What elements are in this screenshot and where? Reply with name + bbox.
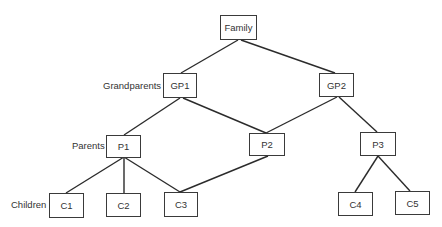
node-c3: C3 <box>164 192 198 217</box>
node-gp2: GP2 <box>319 73 354 97</box>
node-p2: P2 <box>249 133 285 156</box>
node-p1: P1 <box>106 135 141 158</box>
node-c2: C2 <box>106 193 141 217</box>
node-c4: C4 <box>338 192 373 216</box>
edge-gp1-p1 <box>124 98 180 135</box>
node-c5: C5 <box>395 191 430 215</box>
edge-gp1-p2 <box>183 98 266 133</box>
node-c1: C1 <box>49 193 84 218</box>
node-family: Family <box>220 15 257 40</box>
edge-family-gp1 <box>181 40 238 73</box>
node-gp1: GP1 <box>163 73 197 98</box>
edge-gp2-p2 <box>266 97 337 133</box>
edge-p3-c4 <box>355 156 378 192</box>
node-p3: P3 <box>360 132 396 156</box>
edge-family-gp2 <box>241 40 335 73</box>
edge-p3-c5 <box>378 156 410 191</box>
level-label-parents: Parents <box>72 140 105 151</box>
edge-p1-c1 <box>66 157 124 193</box>
edge-p2-c3 <box>180 156 268 192</box>
level-label-grandparents: Grandparents <box>103 80 161 91</box>
level-label-children: Children <box>11 199 46 210</box>
edge-gp2-p3 <box>339 97 377 132</box>
edge-p1-c3 <box>124 157 180 192</box>
